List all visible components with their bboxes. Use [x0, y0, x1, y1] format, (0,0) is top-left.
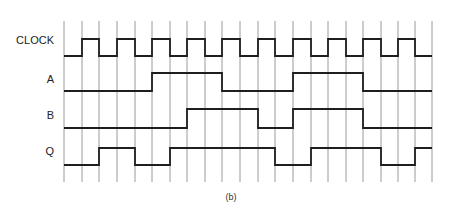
timing-diagram — [0, 0, 456, 215]
waveform-clock — [64, 39, 432, 56]
signal-label-a: A — [4, 73, 54, 85]
waveform-q — [64, 148, 432, 165]
signal-label-b: B — [4, 109, 54, 121]
waveforms — [64, 39, 432, 165]
signal-label-q: Q — [4, 145, 54, 157]
waveform-a — [64, 73, 432, 91]
signal-label-clock: CLOCK — [4, 34, 54, 46]
waveform-b — [64, 109, 432, 128]
figure-caption: (b) — [216, 192, 246, 202]
clock-gridlines — [64, 21, 432, 182]
